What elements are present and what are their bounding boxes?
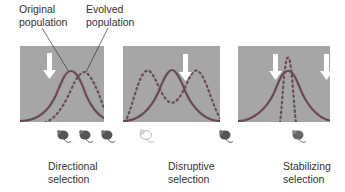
caption-disruptive: Disruptive selection xyxy=(168,160,228,185)
evolved-leader-line xyxy=(86,28,108,72)
mouse-icon xyxy=(57,130,71,142)
original-leader-line xyxy=(42,28,69,72)
disruptive-curves xyxy=(123,70,220,121)
caption-disruptive-line1: Disruptive xyxy=(168,160,228,173)
caption-stabilizing-line1: Stabilizing xyxy=(283,160,345,173)
caption-stabilizing-line2: selection xyxy=(283,173,345,186)
caption-stabilizing: Stabilizing selection xyxy=(283,160,345,185)
mouse-icon xyxy=(101,130,115,142)
caption-directional: Directional selection xyxy=(48,160,108,185)
caption-directional-line2: selection xyxy=(48,173,108,186)
mouse-icon xyxy=(292,130,306,142)
mouse-icon xyxy=(79,130,93,142)
directional-curves xyxy=(20,71,112,124)
mouse-light-icon xyxy=(140,130,154,142)
caption-directional-line1: Directional xyxy=(48,160,108,173)
mouse-icon xyxy=(219,130,233,142)
arrow-down-icon xyxy=(43,53,56,79)
caption-disruptive-line2: selection xyxy=(168,173,228,186)
stabilizing-curves xyxy=(238,58,334,124)
arrow-down-icon xyxy=(320,54,333,80)
arrow-down-icon xyxy=(269,54,282,80)
